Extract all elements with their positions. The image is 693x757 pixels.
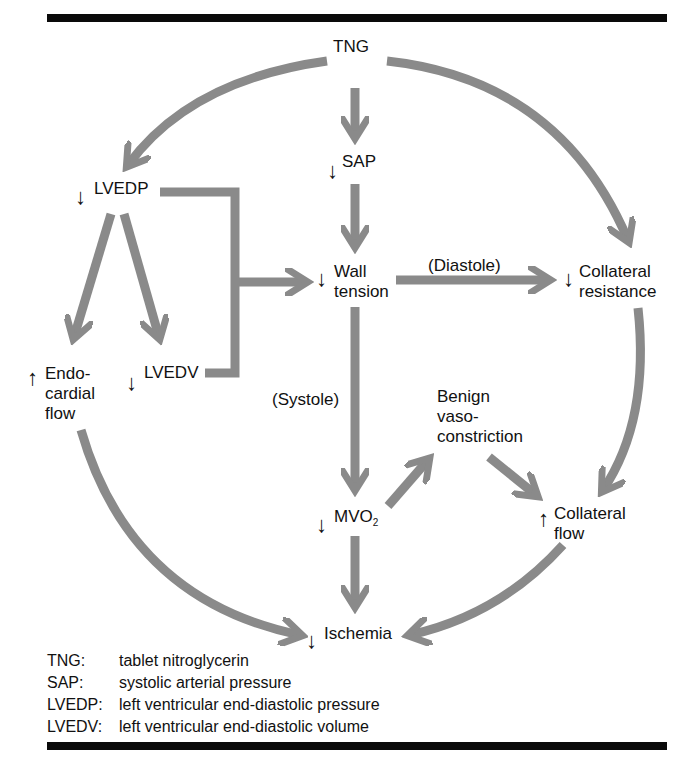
down-arrow-icon: ↓	[563, 268, 574, 290]
down-arrow-icon: ↓	[306, 630, 317, 652]
node-sap: SAP	[342, 152, 376, 172]
node-label-line: tension	[334, 282, 389, 302]
node-label-line: constriction	[437, 427, 523, 447]
down-arrow-icon: ↓	[327, 160, 338, 182]
node-label: LVEDV	[144, 363, 199, 382]
node-lvedv: LVEDV	[144, 363, 199, 383]
arrow-collres-collflow	[603, 308, 640, 490]
legend-row: LVEDV: left ventricular end-diastolic vo…	[47, 716, 380, 738]
down-arrow-icon: ↓	[75, 186, 86, 208]
node-label-line: flow	[45, 404, 95, 424]
node-wall-tension: Wall tension	[334, 262, 389, 302]
legend-row: LVEDP: left ventricular end-diastolic pr…	[47, 694, 380, 716]
arrow-lvedp-lvedv	[124, 214, 159, 337]
legend-definition: left ventricular end-diastolic volume	[119, 716, 369, 738]
node-label-line: Benign	[437, 387, 523, 407]
node-label-line: flow	[554, 524, 626, 544]
down-arrow-icon: ↓	[316, 268, 327, 290]
node-label-line: Endo-	[45, 364, 95, 384]
up-arrow-icon: ↑	[538, 508, 549, 530]
node-label-line: Collateral	[554, 504, 626, 524]
arrow-lvedp-endo	[74, 214, 111, 337]
legend-abbr: TNG:	[47, 650, 119, 672]
legend-definition: tablet nitroglycerin	[119, 650, 249, 672]
node-label-line: Wall	[334, 262, 389, 282]
edge-label-diastole: (Diastole)	[428, 256, 501, 276]
node-subscript: 2	[373, 517, 379, 528]
node-label: TNG	[333, 37, 369, 56]
node-endocardial-flow: Endo- cardial flow	[45, 364, 95, 424]
legend-abbr: LVEDP:	[47, 694, 119, 716]
node-label-line: Collateral	[579, 262, 656, 282]
arrow-tng-collateral-resistance	[387, 61, 628, 240]
node-label-line: resistance	[579, 282, 656, 302]
legend-row: TNG: tablet nitroglycerin	[47, 650, 380, 672]
node-label-line: vaso-	[437, 407, 523, 427]
down-arrow-icon: ↓	[126, 372, 137, 394]
node-label: LVEDP	[94, 179, 149, 198]
legend-abbr: LVEDV:	[47, 716, 119, 738]
node-collateral-flow: Collateral flow	[554, 504, 626, 544]
node-tng: TNG	[333, 37, 369, 57]
arrow-benign-collateral-flow	[489, 457, 536, 495]
arrow-collflow-ischemia	[410, 545, 563, 635]
node-label: SAP	[342, 152, 376, 171]
node-benign-vasoconstriction: Benign vaso- constriction	[437, 387, 523, 447]
node-label: Ischemia	[324, 624, 392, 643]
legend: TNG: tablet nitroglycerin SAP: systolic …	[47, 650, 380, 738]
bracket-lvedp-lvedv	[160, 192, 235, 373]
down-arrow-icon: ↓	[316, 514, 327, 536]
node-lvedp: LVEDP	[94, 179, 149, 199]
legend-definition: left ventricular end-diastolic pressure	[119, 694, 380, 716]
arrow-endo-ischemia	[81, 430, 300, 635]
node-label-line: cardial	[45, 384, 95, 404]
arrow-tng-lvedp	[128, 61, 327, 165]
node-ischemia: Ischemia	[324, 624, 392, 644]
legend-row: SAP: systolic arterial pressure	[47, 672, 380, 694]
node-label: MVO	[334, 507, 373, 526]
node-mvo2: MVO2	[334, 507, 378, 533]
edge-label-systole: (Systole)	[272, 390, 339, 410]
node-collateral-resistance: Collateral resistance	[579, 262, 656, 302]
arrow-mvo2-benign	[388, 460, 428, 506]
legend-definition: systolic arterial pressure	[119, 672, 292, 694]
legend-abbr: SAP:	[47, 672, 119, 694]
up-arrow-icon: ↑	[27, 367, 38, 389]
